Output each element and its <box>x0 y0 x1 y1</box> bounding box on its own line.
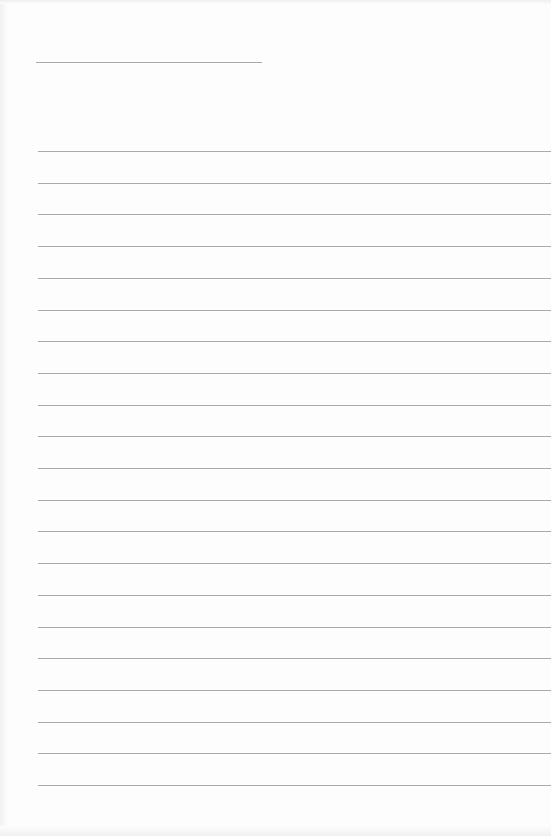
ruled-line <box>38 563 551 564</box>
ruled-line <box>38 183 551 184</box>
ruled-line <box>38 500 551 501</box>
ruled-line <box>38 627 551 628</box>
ruled-line <box>38 373 551 374</box>
page-top-edge <box>0 0 551 4</box>
ruled-line <box>38 785 551 786</box>
page-left-edge <box>0 0 8 836</box>
page-bottom-edge <box>0 826 551 836</box>
ruled-line <box>38 405 551 406</box>
ruled-line <box>38 214 551 215</box>
ruled-line <box>38 658 551 659</box>
ruled-line <box>38 690 551 691</box>
ruled-line <box>38 531 551 532</box>
ruled-line <box>38 151 551 152</box>
header-name-line <box>36 62 262 63</box>
ruled-line <box>38 278 551 279</box>
ruled-line <box>38 341 551 342</box>
lined-paper-page <box>0 0 551 836</box>
ruled-line <box>38 722 551 723</box>
ruled-line <box>38 436 551 437</box>
ruled-line <box>38 310 551 311</box>
ruled-line <box>38 595 551 596</box>
ruled-line <box>38 246 551 247</box>
ruled-line <box>38 753 551 754</box>
ruled-line <box>38 468 551 469</box>
